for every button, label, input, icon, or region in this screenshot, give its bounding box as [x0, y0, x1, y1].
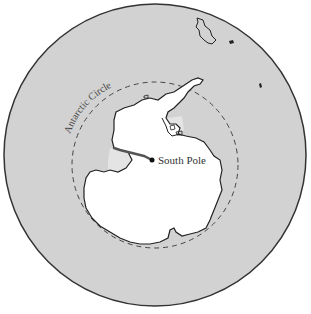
south-pole-marker [150, 158, 155, 163]
south-pole-label: South Pole [158, 154, 206, 166]
polar-map: Antarctic Circle [0, 0, 311, 314]
